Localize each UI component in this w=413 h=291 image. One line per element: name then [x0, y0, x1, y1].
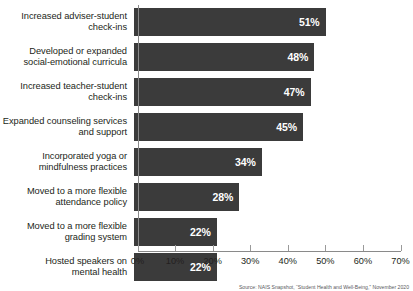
x-axis-tick [401, 245, 402, 251]
y-axis-line [138, 5, 139, 251]
bar-row: Moved to a more flexibleattendance polic… [0, 183, 413, 211]
bar-value-label: 48% [288, 51, 315, 63]
plot-area: Increased adviser-studentcheck-ins51%Dev… [0, 0, 413, 252]
x-axis-tick-label: 40% [279, 256, 297, 266]
bar-track: 51% [134, 8, 413, 36]
bar-value-label: 47% [284, 86, 311, 98]
x-axis-tick [213, 245, 214, 251]
x-axis-tick [363, 245, 364, 251]
bar[interactable]: 34% [134, 148, 262, 176]
x-axis-tick-label: 0% [131, 256, 144, 266]
bar-value-label: 51% [299, 16, 326, 28]
x-axis-tick-label: 60% [354, 256, 372, 266]
x-axis-tick [175, 245, 176, 251]
category-label: Expanded counseling servicesand support [0, 113, 134, 141]
x-axis-tick-labels: 0%10%20%30%40%50%60%70% [0, 256, 413, 270]
x-axis-tick-label: 70% [391, 256, 409, 266]
bar-track: 47% [134, 78, 413, 106]
bar-row: Increased adviser-studentcheck-ins51% [0, 8, 413, 36]
bar-row: Increased teacher-studentcheck-ins47% [0, 78, 413, 106]
bar[interactable]: 51% [134, 8, 326, 36]
x-axis-tick [325, 245, 326, 251]
bar-value-label: 22% [190, 226, 217, 238]
bar-track: 34% [134, 148, 413, 176]
bar-track: 48% [134, 43, 413, 71]
bar-track: 22% [134, 218, 413, 246]
bar-track: 45% [134, 113, 413, 141]
x-axis-tick [288, 245, 289, 251]
bar-value-label: 34% [235, 156, 262, 168]
bar-chart: Increased adviser-studentcheck-ins51%Dev… [0, 0, 413, 291]
bar-rows: Increased adviser-studentcheck-ins51%Dev… [0, 8, 413, 288]
bar[interactable]: 28% [134, 183, 239, 211]
bar-value-label: 28% [212, 191, 239, 203]
x-axis-tick-label: 10% [166, 256, 184, 266]
bar-row: Developed or expandedsocial-emotional cu… [0, 43, 413, 71]
bar[interactable]: 22% [134, 218, 217, 246]
category-label: Developed or expandedsocial-emotional cu… [0, 43, 134, 71]
bar[interactable]: 45% [134, 113, 303, 141]
category-label: Moved to a more flexibleattendance polic… [0, 183, 134, 211]
x-axis-tick-label: 30% [241, 256, 259, 266]
x-axis-tick [138, 245, 139, 251]
x-axis-tick [250, 245, 251, 251]
category-label: Increased teacher-studentcheck-ins [0, 78, 134, 106]
x-axis-tick-label: 20% [203, 256, 221, 266]
x-axis-line [138, 251, 401, 252]
bar-row: Incorporated yoga ormindfulness practice… [0, 148, 413, 176]
category-label: Moved to a more flexiblegrading system [0, 218, 134, 246]
source-caption: Source: NAIS Snapshot, “Student Health a… [239, 284, 409, 290]
bar-value-label: 45% [276, 121, 303, 133]
bar-row: Expanded counseling servicesand support4… [0, 113, 413, 141]
x-axis-tick-label: 50% [316, 256, 334, 266]
bar-track: 28% [134, 183, 413, 211]
category-label: Incorporated yoga ormindfulness practice… [0, 148, 134, 176]
bar-row: Moved to a more flexiblegrading system22… [0, 218, 413, 246]
category-label: Increased adviser-studentcheck-ins [0, 8, 134, 36]
bar[interactable]: 48% [134, 43, 314, 71]
bar[interactable]: 47% [134, 78, 311, 106]
